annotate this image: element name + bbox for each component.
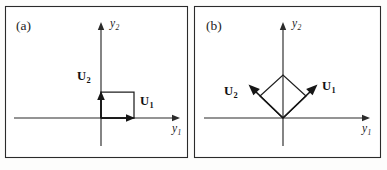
panel-b-y-axis-label-sub: 2 [298, 23, 302, 32]
panel-b-x-axis-label-sub: 1 [368, 128, 372, 137]
panel-b-vector-u1-label-sub: 1 [332, 86, 336, 95]
panel-a-vector-u2-label-base: U [77, 69, 86, 83]
panel-b-tag: (b) [206, 18, 222, 33]
panel-a-vector-u2-label-sub: 2 [87, 76, 91, 85]
panel-a-y-axis-label-sub: 2 [116, 23, 120, 32]
panel-a: (a) y1 y2 U1 U2 [6, 7, 188, 158]
panel-a-x-axis-label-sub: 1 [178, 128, 182, 137]
panel-a-vector-u1-label-sub: 1 [150, 101, 154, 110]
panel-b-vector-u1-label-base: U [322, 79, 331, 93]
panel-a-tag: (a) [16, 18, 31, 33]
panel-a-frame [6, 7, 188, 158]
panel-b: (b) y1 y2 U1 U2 [195, 7, 381, 158]
figure-container: (a) y1 y2 U1 U2 (b) [0, 0, 387, 170]
panel-b-frame [195, 7, 381, 158]
vector-basis-figure: (a) y1 y2 U1 U2 (b) [0, 0, 387, 170]
panel-a-vector-u1-label-base: U [140, 94, 149, 108]
panel-b-vector-u2-label-base: U [224, 84, 233, 98]
panel-b-vector-u2-label-sub: 2 [234, 91, 238, 100]
